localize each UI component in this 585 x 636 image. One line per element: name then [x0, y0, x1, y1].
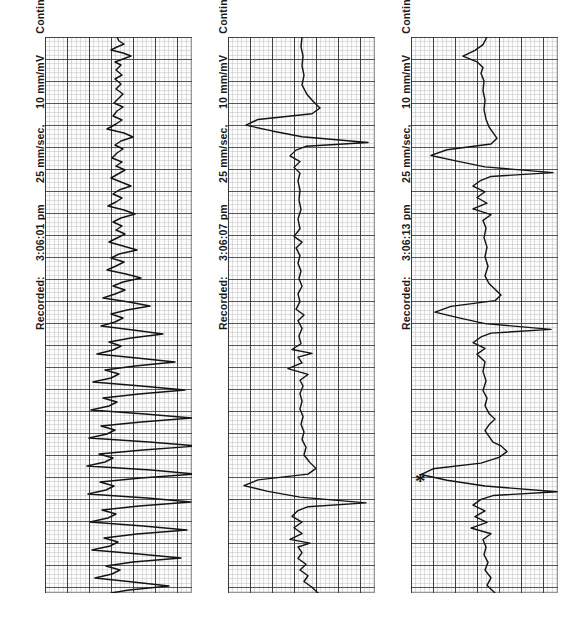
- ecg-strip-1: Recorded: 3:06:01 pm 25 mm/sec, 10 mm/mV…: [0, 0, 195, 636]
- strip-3-continues: Continues->: [400, 0, 412, 34]
- strip-2-continues: Continues->: [217, 0, 229, 34]
- ecg-strip-3: Recorded: 3:06:13 pm 25 mm/sec, 10 mm/mV…: [366, 0, 585, 636]
- strip-2-trace: [228, 37, 375, 593]
- strip-3-asterisk-annotation: *: [415, 471, 426, 492]
- strip-1-trace: [45, 37, 192, 593]
- strip-2-grid: [228, 37, 375, 593]
- strip-1-continues: Continues->: [34, 0, 46, 34]
- ecg-sheet: Recorded: 3:06:01 pm 25 mm/sec, 10 mm/mV…: [0, 0, 585, 636]
- strip-3-trace: [411, 37, 558, 593]
- strip-1-grid: [45, 37, 192, 593]
- strip-3-grid: *: [411, 37, 558, 593]
- ecg-strip-2: Recorded: 3:06:07 pm 25 mm/sec, 10 mm/mV…: [183, 0, 378, 636]
